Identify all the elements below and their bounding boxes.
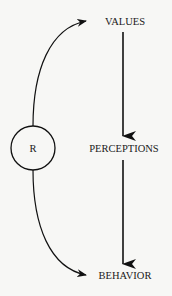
arrow-r-to-values bbox=[33, 21, 86, 126]
arrow-r-to-behavior bbox=[33, 170, 86, 275]
node-perceptions: PERCEPTIONS bbox=[89, 143, 159, 154]
diagram-canvas: VALUES PERCEPTIONS BEHAVIOR R bbox=[0, 0, 172, 296]
node-values: VALUES bbox=[105, 16, 145, 27]
node-r-label: R bbox=[29, 143, 36, 154]
node-behavior: BEHAVIOR bbox=[99, 270, 152, 281]
